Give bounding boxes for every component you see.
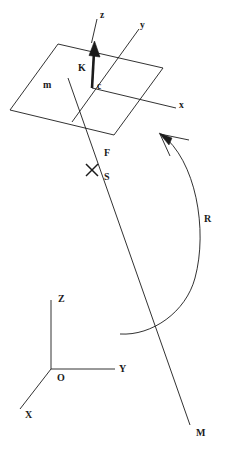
body-z-axis-label: z — [100, 11, 104, 21]
foot-point-f-label: F — [104, 148, 110, 158]
body-x-axis-label: x — [179, 101, 184, 111]
plane-m-quad — [10, 44, 163, 135]
body-x-axis-line — [92, 88, 176, 108]
global-x-axis-line — [20, 369, 51, 409]
plane-m-label: m — [43, 80, 51, 90]
diagram-vector-layer — [0, 0, 226, 458]
point-s-label: S — [104, 172, 110, 182]
global-z-axis-label: Z — [58, 294, 65, 304]
diagram-canvas: z y x c K m F S R Z Y X O M — [0, 0, 226, 458]
global-origin-label: O — [57, 373, 65, 383]
body-origin-label: c — [97, 82, 101, 92]
global-y-axis-label: Y — [119, 364, 126, 374]
force-vector-k-arrowhead — [89, 41, 100, 57]
body-z-axis-line — [92, 19, 98, 43]
force-vector-k-shaft — [92, 52, 94, 88]
force-vector-k-label: K — [78, 63, 86, 73]
body-y-axis-line — [72, 29, 139, 122]
moment-line-m-label: M — [196, 428, 205, 438]
line-of-action-m — [68, 78, 190, 425]
rotation-arc-r — [120, 134, 200, 334]
global-x-axis-label: X — [25, 410, 32, 420]
rotation-arc-r-label: R — [204, 214, 211, 224]
body-y-axis-label: y — [140, 21, 145, 31]
